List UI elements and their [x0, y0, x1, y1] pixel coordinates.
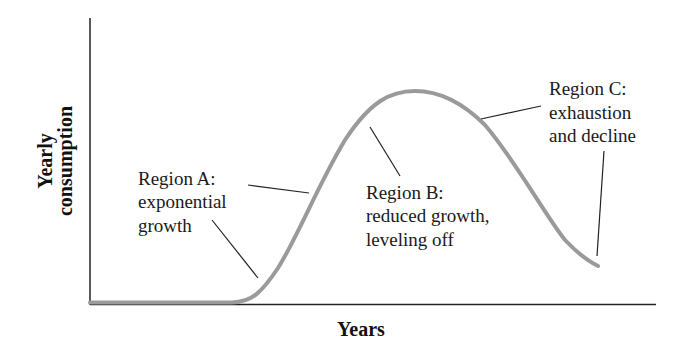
region-c-leader-upper	[481, 106, 541, 119]
region-a-leader-upper	[248, 185, 309, 193]
x-axis-title: Years	[337, 318, 385, 340]
region-b-leader	[370, 127, 400, 176]
region-c-label: Region C: exhaustion and decline	[549, 78, 636, 146]
region-b-label: Region B: reduced growth, leveling off	[366, 182, 494, 250]
region-a-leader-lower	[212, 220, 258, 278]
y-axis-title: Yearly consumption	[34, 106, 77, 216]
consumption-chart: Region A: exponential growth Region B: r…	[0, 0, 687, 353]
region-a-label: Region A: exponential growth	[138, 168, 231, 236]
svg-text:consumption: consumption	[54, 106, 77, 216]
region-c-leader-lower	[597, 151, 604, 256]
